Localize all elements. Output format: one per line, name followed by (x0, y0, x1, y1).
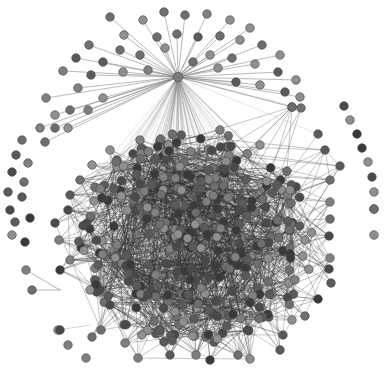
graph-node[interactable] (189, 315, 198, 324)
graph-node[interactable] (228, 287, 237, 296)
graph-node[interactable] (104, 292, 113, 301)
graph-node[interactable] (364, 158, 373, 167)
graph-node[interactable] (246, 298, 255, 307)
graph-node[interactable] (213, 233, 222, 242)
graph-node[interactable] (227, 142, 236, 151)
graph-node[interactable] (207, 146, 216, 155)
graph-node[interactable] (6, 206, 15, 215)
graph-node[interactable] (211, 297, 220, 306)
graph-node[interactable] (222, 157, 231, 166)
graph-node[interactable] (12, 151, 21, 160)
graph-node[interactable] (194, 299, 203, 308)
graph-node[interactable] (94, 261, 103, 270)
graph-node[interactable] (254, 259, 263, 268)
graph-node[interactable] (273, 216, 282, 225)
graph-node[interactable] (133, 282, 142, 291)
graph-node[interactable] (203, 10, 212, 19)
graph-node[interactable] (51, 124, 60, 133)
graph-node[interactable] (96, 184, 105, 193)
graph-node[interactable] (186, 147, 195, 156)
graph-node[interactable] (237, 314, 246, 323)
graph-node[interactable] (325, 232, 334, 241)
graph-node[interactable] (22, 266, 31, 275)
graph-node[interactable] (358, 144, 367, 153)
graph-node[interactable] (119, 162, 128, 171)
graph-node[interactable] (326, 176, 335, 185)
graph-node[interactable] (129, 149, 138, 158)
graph-node[interactable] (132, 170, 141, 179)
graph-node[interactable] (191, 220, 200, 229)
graph-node[interactable] (66, 256, 75, 265)
graph-node[interactable] (179, 318, 188, 327)
graph-node[interactable] (144, 261, 153, 270)
graph-node[interactable] (189, 58, 198, 67)
graph-node[interactable] (56, 266, 65, 275)
graph-node[interactable] (283, 217, 292, 226)
graph-node[interactable] (173, 72, 183, 82)
graph-node[interactable] (136, 136, 145, 145)
graph-node[interactable] (206, 51, 215, 60)
graph-node[interactable] (279, 331, 288, 340)
graph-node[interactable] (171, 201, 180, 210)
graph-node[interactable] (228, 54, 237, 63)
graph-node[interactable] (80, 246, 89, 255)
graph-node[interactable] (212, 261, 221, 270)
graph-node[interactable] (273, 180, 282, 189)
graph-node[interactable] (326, 215, 335, 224)
graph-node[interactable] (235, 206, 244, 215)
graph-node[interactable] (243, 149, 252, 158)
graph-node[interactable] (370, 188, 379, 197)
graph-node[interactable] (122, 320, 131, 329)
graph-node[interactable] (314, 295, 323, 304)
graph-node[interactable] (92, 236, 101, 245)
graph-node[interactable] (285, 225, 294, 234)
graph-node[interactable] (98, 250, 107, 259)
graph-node[interactable] (144, 230, 153, 239)
graph-node[interactable] (85, 41, 94, 50)
graph-node[interactable] (204, 331, 213, 340)
graph-node[interactable] (206, 356, 215, 365)
graph-node[interactable] (79, 221, 88, 230)
graph-node[interactable] (188, 242, 197, 251)
graph-node[interactable] (285, 266, 294, 275)
graph-node[interactable] (168, 130, 177, 139)
graph-node[interactable] (234, 351, 243, 360)
graph-node[interactable] (4, 188, 13, 197)
graph-node[interactable] (295, 222, 304, 231)
graph-node[interactable] (98, 194, 107, 203)
graph-node[interactable] (291, 276, 300, 285)
graph-node[interactable] (99, 58, 108, 67)
graph-node[interactable] (256, 81, 265, 90)
graph-node[interactable] (109, 222, 118, 231)
graph-node[interactable] (266, 164, 275, 173)
graph-node[interactable] (42, 94, 51, 103)
graph-node[interactable] (64, 206, 73, 215)
graph-node[interactable] (164, 291, 173, 300)
graph-node[interactable] (246, 24, 255, 33)
graph-node[interactable] (197, 244, 206, 253)
graph-node[interactable] (150, 169, 159, 178)
graph-node[interactable] (172, 138, 181, 147)
graph-node[interactable] (144, 147, 153, 156)
graph-node[interactable] (204, 166, 213, 175)
graph-node[interactable] (265, 290, 274, 299)
graph-node[interactable] (184, 290, 193, 299)
graph-node[interactable] (255, 314, 264, 323)
graph-node[interactable] (142, 214, 151, 223)
graph-node[interactable] (202, 197, 211, 206)
graph-node[interactable] (72, 54, 81, 63)
graph-node[interactable] (301, 236, 310, 245)
graph-node[interactable] (232, 226, 241, 235)
graph-node[interactable] (56, 326, 65, 335)
graph-node[interactable] (197, 284, 206, 293)
graph-node[interactable] (205, 175, 214, 184)
graph-node[interactable] (171, 174, 180, 183)
graph-node[interactable] (288, 103, 297, 112)
graph-node[interactable] (281, 88, 290, 97)
graph-node[interactable] (203, 230, 212, 239)
graph-node[interactable] (285, 300, 294, 309)
graph-node[interactable] (274, 234, 283, 243)
graph-node[interactable] (134, 354, 143, 363)
graph-node[interactable] (111, 253, 120, 262)
graph-node[interactable] (64, 124, 73, 133)
